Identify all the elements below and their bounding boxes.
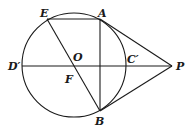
label-a: A	[97, 7, 107, 20]
label-f: F	[64, 73, 74, 86]
segment-eb	[47, 19, 100, 111]
geometry-diagram: E A O F D′ C′ P B	[0, 0, 189, 131]
label-d: D′	[7, 60, 21, 73]
label-b: B	[94, 115, 104, 128]
tangent-pb	[100, 66, 172, 111]
label-e: E	[39, 7, 49, 20]
label-o: O	[73, 51, 83, 64]
label-p: P	[175, 60, 185, 73]
label-c: C′	[127, 53, 139, 66]
